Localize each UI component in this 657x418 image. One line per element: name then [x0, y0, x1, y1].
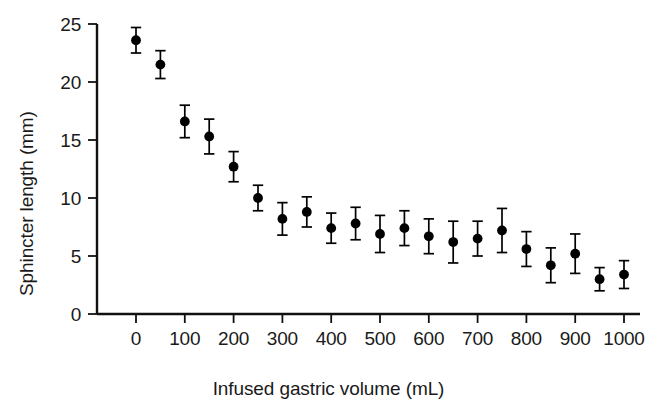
data-point-marker	[229, 162, 239, 172]
data-point-group	[472, 221, 482, 256]
data-point-marker	[595, 274, 605, 284]
data-point-group	[253, 185, 263, 211]
data-point-group	[619, 261, 629, 289]
data-point-group	[350, 207, 360, 239]
data-point-marker	[546, 260, 556, 270]
data-points-group	[131, 27, 629, 290]
data-point-group	[204, 119, 214, 154]
data-point-marker	[156, 60, 166, 70]
data-point-group	[448, 221, 458, 263]
data-point-group	[131, 27, 141, 53]
data-point-marker	[497, 226, 507, 236]
data-point-group	[180, 105, 190, 137]
y-axis-tick-label: 5	[71, 246, 81, 267]
data-point-marker	[351, 219, 361, 229]
x-axis-tick-label: 200	[218, 328, 249, 349]
x-axis-title: Infused gastric volume (mL)	[0, 378, 657, 400]
x-axis-tick-label: 700	[462, 328, 493, 349]
data-point-group	[155, 51, 165, 79]
axis-tick-labels-group: 0510152025010020030040050060070080090010…	[60, 14, 644, 349]
data-point-marker	[570, 249, 580, 259]
x-axis-tick-label: 300	[267, 328, 298, 349]
axes-group	[97, 24, 640, 314]
data-point-group	[375, 215, 385, 252]
data-point-marker	[448, 237, 458, 247]
data-point-marker	[424, 231, 434, 241]
x-axis-tick-label: 500	[364, 328, 395, 349]
y-axis-title: Sphincter length (mm)	[16, 111, 38, 296]
data-point-marker	[400, 223, 410, 233]
data-point-marker	[253, 193, 263, 203]
y-axis-tick-label: 10	[60, 188, 81, 209]
x-axis-tick-label: 100	[169, 328, 200, 349]
data-point-marker	[619, 270, 629, 280]
data-point-marker	[278, 214, 288, 224]
x-axis-tick-label: 600	[413, 328, 444, 349]
data-point-marker	[375, 229, 385, 239]
y-axis-tick-label: 15	[60, 130, 81, 151]
data-point-group	[497, 208, 507, 252]
data-point-group	[424, 219, 434, 254]
data-point-group	[594, 268, 604, 291]
axis-ticks-group	[88, 24, 624, 323]
chart-figure: 0510152025010020030040050060070080090010…	[0, 0, 657, 418]
data-point-group	[277, 203, 287, 235]
data-point-marker	[204, 132, 214, 142]
x-axis-tick-label: 0	[131, 328, 141, 349]
data-point-group	[228, 152, 238, 182]
x-axis-tick-label: 1000	[603, 328, 644, 349]
scatter-plot-canvas: 0510152025010020030040050060070080090010…	[0, 0, 657, 418]
data-point-marker	[522, 244, 532, 254]
y-axis-tick-label: 20	[60, 72, 81, 93]
x-axis-tick-label: 400	[316, 328, 347, 349]
data-point-marker	[180, 117, 190, 127]
data-point-group	[302, 197, 312, 227]
x-axis-tick-label: 800	[511, 328, 542, 349]
data-point-group	[326, 213, 336, 243]
y-axis-tick-label: 25	[60, 14, 81, 35]
data-point-group	[399, 211, 409, 246]
data-point-marker	[302, 207, 312, 217]
data-point-group	[521, 232, 531, 267]
y-axis-tick-label: 0	[71, 304, 81, 325]
data-point-marker	[473, 234, 483, 244]
x-axis-tick-label: 900	[560, 328, 591, 349]
data-point-group	[546, 248, 556, 283]
data-point-group	[570, 234, 580, 273]
data-point-marker	[131, 35, 141, 45]
data-point-marker	[326, 223, 336, 233]
